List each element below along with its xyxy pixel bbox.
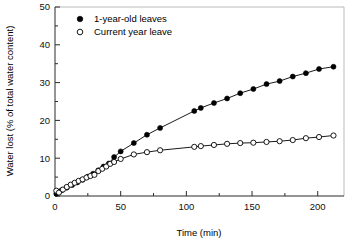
data-point-0 xyxy=(303,71,308,76)
series-lines xyxy=(56,67,333,194)
data-point-0 xyxy=(118,149,123,154)
data-point-1 xyxy=(144,150,149,155)
y-tick-label: 10 xyxy=(39,153,50,164)
x-tick-label: 0 xyxy=(52,201,57,212)
data-point-1 xyxy=(251,140,256,145)
x-axis-title: Time (min) xyxy=(176,227,221,238)
chart-plot-area: 01020304050 050100150200 1-year-old leav… xyxy=(0,0,356,242)
data-point-1 xyxy=(224,141,229,146)
data-point-0 xyxy=(198,105,203,110)
y-tick-label: 0 xyxy=(45,190,50,201)
data-point-1 xyxy=(331,133,336,138)
data-point-0 xyxy=(131,141,136,146)
data-point-0 xyxy=(192,108,197,113)
data-point-0 xyxy=(331,64,336,69)
data-point-0 xyxy=(112,155,117,160)
data-point-1 xyxy=(211,142,216,147)
data-point-1 xyxy=(303,136,308,141)
series-points xyxy=(54,64,336,196)
x-tick-label: 200 xyxy=(310,201,326,212)
data-point-0 xyxy=(317,66,322,71)
data-point-1 xyxy=(192,144,197,149)
series-line-0 xyxy=(56,67,333,194)
data-point-1 xyxy=(112,159,117,164)
data-point-1 xyxy=(277,139,282,144)
data-point-0 xyxy=(290,74,295,79)
data-point-0 xyxy=(251,87,256,92)
data-point-0 xyxy=(144,132,149,137)
x-tick-label: 100 xyxy=(178,201,194,212)
legend-marker-1 xyxy=(77,29,83,35)
data-point-0 xyxy=(158,125,163,130)
y-tick-label: 40 xyxy=(39,39,50,50)
legend-marker-0 xyxy=(77,16,83,22)
legend-label-0: 1-year-old leaves xyxy=(94,13,167,24)
data-point-1 xyxy=(290,137,295,142)
data-point-0 xyxy=(264,82,269,87)
data-point-0 xyxy=(277,79,282,84)
data-point-1 xyxy=(238,140,243,145)
x-tick-label: 150 xyxy=(244,201,260,212)
data-point-1 xyxy=(118,156,123,161)
y-tick-label: 30 xyxy=(39,77,50,88)
data-point-1 xyxy=(264,139,269,144)
data-point-1 xyxy=(157,148,162,153)
data-point-0 xyxy=(238,91,243,96)
chart-figure: 01020304050 050100150200 1-year-old leav… xyxy=(0,0,356,242)
legend-label-1: Current year leave xyxy=(94,26,172,37)
y-axis-title: Water lost (% of total water content) xyxy=(4,26,15,177)
chart-legend: 1-year-old leavesCurrent year leave xyxy=(77,13,172,37)
data-point-1 xyxy=(198,144,203,149)
y-axis-ticks: 01020304050 xyxy=(39,1,60,201)
data-point-0 xyxy=(225,96,230,101)
y-tick-label: 20 xyxy=(39,115,50,126)
x-axis-ticks: 050100150200 xyxy=(52,191,325,212)
y-tick-label: 50 xyxy=(39,1,50,12)
data-point-1 xyxy=(316,134,321,139)
data-point-1 xyxy=(131,152,136,157)
x-tick-label: 50 xyxy=(115,201,126,212)
data-point-0 xyxy=(211,101,216,106)
